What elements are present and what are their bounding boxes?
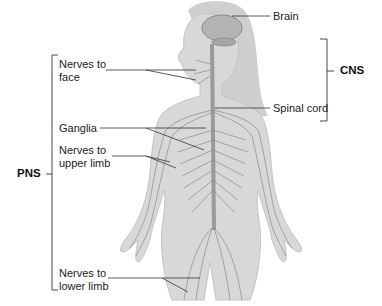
label-nerves-to-upper-limb: Nerves to upper limb <box>59 144 115 170</box>
label-ganglia: Ganglia <box>59 122 97 135</box>
cerebellum-shape <box>212 38 236 46</box>
face-leader <box>106 70 196 80</box>
label-cns: CNS <box>340 64 364 76</box>
label-pns: PNS <box>17 167 41 179</box>
brain-shape <box>202 15 242 41</box>
label-brain: Brain <box>273 10 299 23</box>
label-nerves-to-face: Nerves to face <box>59 58 109 84</box>
nervous-system-diagram: Brain Spinal cord CNS Nerves to face Gan… <box>0 0 382 306</box>
label-spinal-cord: Spinal cord <box>273 102 328 115</box>
spinal-cord-shape <box>212 44 214 230</box>
body-illustration <box>0 0 382 306</box>
pns-bracket <box>46 55 58 290</box>
label-nerves-to-lower-limb: Nerves to lower limb <box>59 267 115 293</box>
